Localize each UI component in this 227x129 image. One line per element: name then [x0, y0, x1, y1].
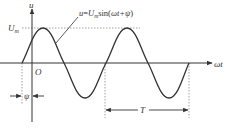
phase-label: ψ — [24, 91, 30, 101]
x-axis-label: ωt — [214, 59, 223, 69]
sine-wave-diagram: u ωt O Um u=Umsin(ωt+ψ) ψ T — [0, 0, 227, 129]
period-label: T — [140, 105, 146, 115]
y-axis-label: u — [29, 0, 34, 10]
equation-leader-line — [56, 17, 78, 43]
equation-label: u=Umsin(ωt+ψ) — [79, 8, 133, 19]
amplitude-label: Um — [8, 23, 20, 34]
origin-label: O — [35, 67, 42, 77]
